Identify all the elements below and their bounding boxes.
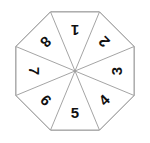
sector-label-1: 1 [71,22,79,39]
sector-label-3: 3 [108,67,125,75]
sector-label-5: 5 [71,104,79,121]
spinner-figure: 12345678 [0,0,150,143]
sector-label-7: 7 [26,67,43,75]
spinner-svg: 12345678 [0,0,150,143]
